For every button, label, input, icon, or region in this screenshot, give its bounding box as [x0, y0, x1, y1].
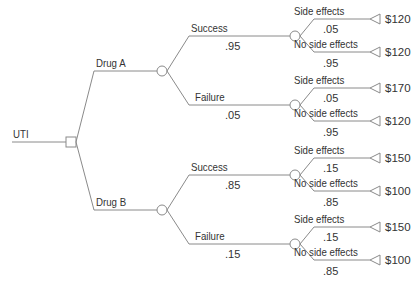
payoff: $120 — [385, 115, 411, 127]
option-label: Drug A — [96, 57, 126, 69]
outcome-label: Success — [191, 161, 228, 173]
terminal-node-icon — [370, 14, 380, 24]
terminal-node-icon — [370, 83, 380, 93]
effect-label: Side effects — [294, 144, 344, 156]
chance-node-icon — [157, 66, 167, 76]
branch-a-failure — [167, 71, 290, 105]
branch-b-failure — [167, 210, 290, 244]
outcome-label: Success — [191, 22, 228, 34]
effect-label: No side effects — [294, 177, 358, 189]
outcome-prob: .95 — [225, 40, 240, 52]
outcome-prob: .15 — [225, 248, 240, 260]
payoff: $120 — [385, 13, 411, 25]
effect-label: No side effects — [294, 246, 358, 258]
effect-label: Side effects — [294, 5, 344, 17]
chance-node-icon — [157, 205, 167, 215]
outcome-prob: .85 — [225, 179, 240, 191]
payoff: $150 — [385, 152, 411, 164]
effect-prob: .85 — [323, 265, 338, 277]
outcome-prob: .05 — [225, 109, 240, 121]
terminal-node-icon — [370, 255, 380, 265]
terminal-node-icon — [370, 47, 380, 57]
decision-node-icon — [66, 137, 76, 147]
outcome-label: Failure — [195, 230, 225, 242]
payoff: $100 — [385, 185, 411, 197]
effect-label: No side effects — [294, 38, 358, 50]
root-label: UTI — [13, 128, 29, 140]
effect-label: Side effects — [294, 213, 344, 225]
effect-prob: .15 — [323, 231, 338, 243]
effect-prob: .15 — [323, 162, 338, 174]
effect-prob: .95 — [323, 57, 338, 69]
effect-label: Side effects — [294, 74, 344, 86]
terminal-node-icon — [370, 116, 380, 126]
payoff: $150 — [385, 221, 411, 233]
effect-prob: .05 — [323, 23, 338, 35]
payoff: $120 — [385, 46, 411, 58]
effect-prob: .05 — [323, 92, 338, 104]
effect-label: No side effects — [294, 107, 358, 119]
effect-prob: .85 — [323, 196, 338, 208]
terminal-node-icon — [370, 222, 380, 232]
option-label: Drug B — [96, 196, 126, 208]
payoff: $170 — [385, 82, 411, 94]
effect-prob: .95 — [323, 126, 338, 138]
payoff: $100 — [385, 254, 411, 266]
terminal-node-icon — [370, 186, 380, 196]
branch-drug-a — [76, 71, 157, 142]
terminal-node-icon — [370, 153, 380, 163]
outcome-label: Failure — [195, 91, 225, 103]
